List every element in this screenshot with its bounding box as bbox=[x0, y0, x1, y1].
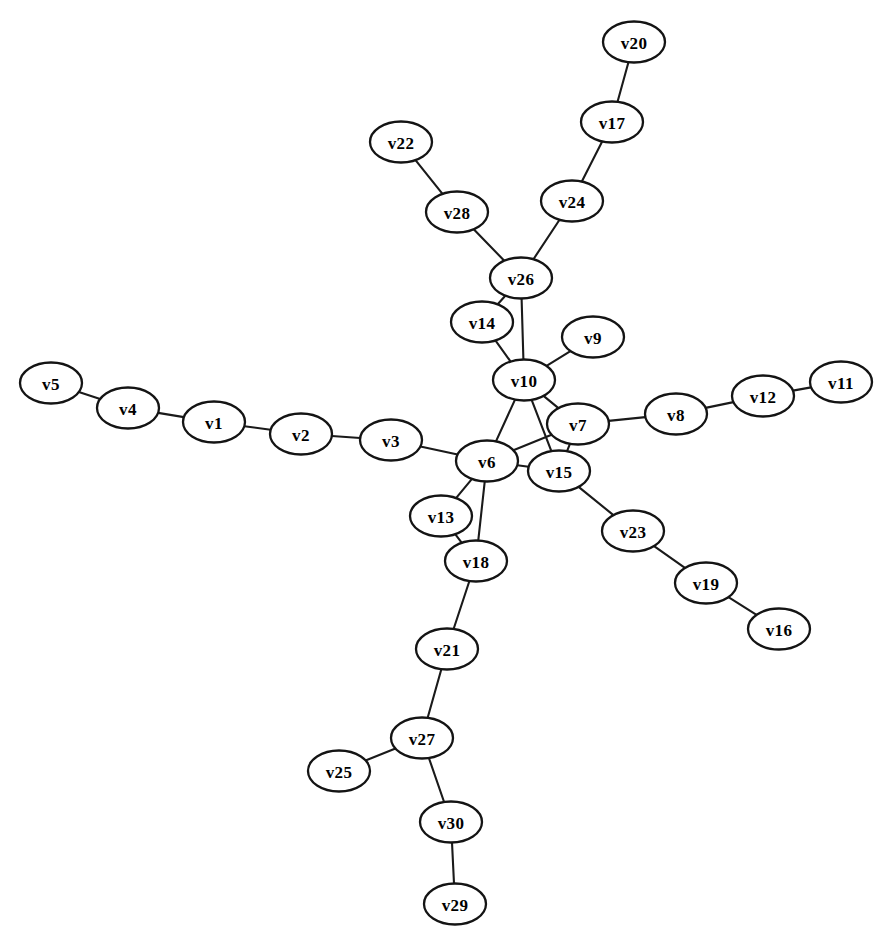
graph-edge-v5-v4 bbox=[79, 392, 100, 399]
graph-edge-v14-v26 bbox=[498, 296, 506, 305]
graph-edge-v1-v2 bbox=[244, 426, 270, 430]
graph-node-v18[interactable]: v18 bbox=[445, 541, 507, 582]
graph-node-label: v1 bbox=[205, 414, 223, 433]
graph-edge-v4-v1 bbox=[158, 413, 184, 417]
graph-node-label: v30 bbox=[438, 814, 465, 833]
node-layer: v5v4v1v2v3v6v13v18v21v27v25v30v29v15v23v… bbox=[20, 22, 872, 925]
graph-node-v5[interactable]: v5 bbox=[20, 363, 82, 404]
graph-edge-v10-v14 bbox=[495, 340, 510, 361]
graph-node-label: v2 bbox=[292, 426, 310, 445]
graph-node-label: v18 bbox=[463, 553, 490, 572]
graph-edge-v6-v10 bbox=[496, 400, 515, 442]
graph-edge-v26-v28 bbox=[474, 229, 505, 260]
graph-node-v9[interactable]: v9 bbox=[562, 317, 624, 358]
graph-edge-v17-v20 bbox=[618, 62, 629, 102]
graph-node-v23[interactable]: v23 bbox=[602, 511, 664, 552]
graph-edge-v26-v24 bbox=[533, 220, 559, 259]
graph-node-v11[interactable]: v11 bbox=[810, 362, 872, 403]
graph-node-label: v7 bbox=[569, 416, 587, 435]
graph-node-label: v5 bbox=[42, 375, 60, 394]
graph-edge-v27-v30 bbox=[429, 758, 444, 802]
graph-node-v17[interactable]: v17 bbox=[581, 102, 643, 143]
graph-node-label: v12 bbox=[750, 388, 777, 407]
graph-edge-v10-v9 bbox=[547, 351, 571, 366]
graph-edge-v10-v26 bbox=[522, 299, 524, 360]
graph-edge-v13-v18 bbox=[455, 534, 462, 543]
graph-node-v12[interactable]: v12 bbox=[732, 376, 794, 417]
graph-node-v24[interactable]: v24 bbox=[541, 181, 603, 222]
graph-edge-v3-v6 bbox=[420, 446, 457, 454]
graph-edge-v2-v3 bbox=[332, 436, 360, 438]
graph-node-label: v24 bbox=[559, 193, 586, 212]
graph-node-label: v3 bbox=[382, 432, 400, 451]
graph-node-label: v16 bbox=[766, 621, 793, 640]
graph-node-v22[interactable]: v22 bbox=[370, 122, 432, 163]
graph-node-label: v10 bbox=[511, 372, 538, 391]
graph-node-label: v19 bbox=[693, 575, 720, 594]
graph-edge-v6-v13 bbox=[456, 479, 472, 498]
graph-node-v15[interactable]: v15 bbox=[528, 451, 590, 492]
graph-node-v2[interactable]: v2 bbox=[270, 414, 332, 455]
graph-node-label: v20 bbox=[621, 34, 648, 53]
graph-edge-v7-v10 bbox=[544, 396, 559, 408]
graph-node-v25[interactable]: v25 bbox=[308, 751, 370, 792]
graph-node-v6[interactable]: v6 bbox=[456, 441, 518, 482]
graph-node-label: v6 bbox=[478, 453, 496, 472]
graph-edge-v23-v19 bbox=[654, 546, 685, 568]
graph-node-v20[interactable]: v20 bbox=[603, 22, 665, 63]
graph-node-v29[interactable]: v29 bbox=[424, 884, 486, 925]
graph-edge-v18-v21 bbox=[454, 581, 470, 629]
graph-node-label: v23 bbox=[620, 523, 647, 542]
graph-edge-v27-v25 bbox=[366, 749, 396, 761]
graph-node-v28[interactable]: v28 bbox=[426, 192, 488, 233]
graph-node-label: v21 bbox=[434, 641, 461, 660]
graph-edge-v19-v16 bbox=[728, 597, 756, 615]
graph-edge-v21-v27 bbox=[428, 669, 442, 718]
graph-edge-v28-v22 bbox=[416, 160, 443, 194]
graph-svg: v5v4v1v2v3v6v13v18v21v27v25v30v29v15v23v… bbox=[0, 0, 893, 948]
graph-node-v8[interactable]: v8 bbox=[645, 394, 707, 435]
graph-node-v26[interactable]: v26 bbox=[490, 258, 552, 299]
graph-edge-v30-v29 bbox=[452, 842, 454, 883]
graph-node-label: v13 bbox=[428, 508, 455, 527]
graph-node-label: v25 bbox=[326, 763, 353, 782]
edge-layer bbox=[79, 62, 811, 883]
graph-diagram-canvas: v5v4v1v2v3v6v13v18v21v27v25v30v29v15v23v… bbox=[0, 0, 893, 948]
graph-node-v3[interactable]: v3 bbox=[360, 420, 422, 461]
graph-node-label: v29 bbox=[442, 896, 469, 915]
graph-edge-v24-v17 bbox=[582, 141, 602, 181]
graph-node-label: v28 bbox=[444, 204, 471, 223]
graph-edge-v6-v18 bbox=[478, 481, 485, 540]
graph-node-label: v22 bbox=[388, 134, 415, 153]
graph-node-v10[interactable]: v10 bbox=[493, 360, 555, 401]
graph-node-v7[interactable]: v7 bbox=[547, 404, 609, 445]
graph-node-v21[interactable]: v21 bbox=[416, 629, 478, 670]
graph-edge-v6-v15 bbox=[517, 465, 528, 467]
graph-node-v14[interactable]: v14 bbox=[451, 302, 513, 343]
graph-node-label: v14 bbox=[469, 314, 496, 333]
graph-node-v13[interactable]: v13 bbox=[410, 496, 472, 537]
graph-node-label: v17 bbox=[599, 114, 626, 133]
graph-node-v30[interactable]: v30 bbox=[420, 802, 482, 843]
graph-node-label: v4 bbox=[119, 400, 137, 419]
graph-node-label: v15 bbox=[546, 463, 573, 482]
graph-node-label: v8 bbox=[667, 406, 685, 425]
graph-node-v1[interactable]: v1 bbox=[183, 402, 245, 443]
graph-node-v4[interactable]: v4 bbox=[97, 388, 159, 429]
graph-edge-v15-v23 bbox=[579, 487, 614, 515]
graph-node-v27[interactable]: v27 bbox=[391, 718, 453, 759]
graph-edge-v12-v11 bbox=[793, 387, 811, 390]
graph-node-v16[interactable]: v16 bbox=[748, 609, 810, 650]
graph-node-label: v11 bbox=[828, 374, 854, 393]
graph-edge-v7-v8 bbox=[609, 417, 646, 421]
graph-node-label: v9 bbox=[584, 329, 602, 348]
graph-node-v19[interactable]: v19 bbox=[675, 563, 737, 604]
graph-node-label: v26 bbox=[508, 270, 535, 289]
graph-node-label: v27 bbox=[409, 730, 436, 749]
graph-edge-v8-v12 bbox=[706, 402, 734, 408]
